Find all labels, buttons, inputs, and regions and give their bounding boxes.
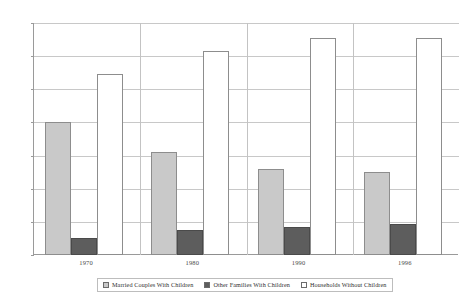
- bar-1996-series-0: [364, 172, 390, 255]
- legend-swatch-icon-0: [103, 282, 109, 288]
- bar-1970-series-2: [97, 74, 123, 255]
- bar-chart: 010203040506070 1970198019901996 Married…: [0, 0, 470, 302]
- legend-label-0: Married Couples With Children: [112, 281, 193, 289]
- bars-layer: [33, 23, 458, 255]
- bar-1980-series-0: [151, 152, 177, 255]
- legend-item-0[interactable]: Married Couples With Children: [103, 281, 193, 289]
- bar-1980-series-1: [177, 230, 203, 255]
- bar-1990-series-1: [284, 227, 310, 255]
- y-tick-mark-0: [31, 255, 34, 256]
- bar-1970-series-0: [45, 122, 71, 255]
- x-axis-label-1980: 1980: [139, 259, 245, 267]
- legend-item-1[interactable]: Other Families With Children: [204, 281, 290, 289]
- bar-1990-series-0: [258, 169, 284, 255]
- chart-legend: Married Couples With ChildrenOther Famil…: [97, 278, 393, 292]
- x-axis-label-1996: 1996: [352, 259, 458, 267]
- bar-1996-series-2: [416, 38, 442, 255]
- legend-label-1: Other Families With Children: [213, 281, 290, 289]
- legend-swatch-icon-2: [301, 282, 307, 288]
- legend-item-2[interactable]: Households Without Children: [301, 281, 387, 289]
- legend-swatch-icon-1: [204, 282, 210, 288]
- x-axis-label-1970: 1970: [33, 259, 139, 267]
- legend-label-2: Households Without Children: [310, 281, 387, 289]
- x-axis-label-1990: 1990: [246, 259, 352, 267]
- bar-1996-series-1: [390, 224, 416, 255]
- bar-1990-series-2: [310, 38, 336, 255]
- bar-1970-series-1: [71, 238, 97, 255]
- bar-1980-series-2: [203, 51, 229, 255]
